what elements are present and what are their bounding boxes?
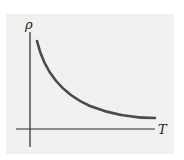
x-axis-label: T [158, 123, 167, 136]
rho-curve [37, 41, 155, 118]
y-axis-label: ρ [25, 18, 33, 31]
